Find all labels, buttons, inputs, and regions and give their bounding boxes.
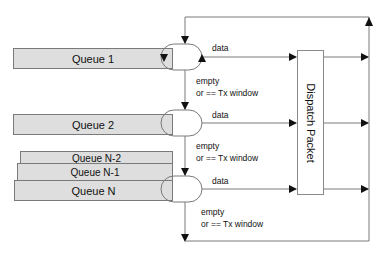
connector-graphics xyxy=(0,0,383,255)
selector-n xyxy=(161,176,202,202)
empty-label-2: empty xyxy=(196,141,219,152)
dispatch-packet-box: Dispatch Packet xyxy=(297,50,324,195)
selector-1 xyxy=(161,44,202,70)
condition-label-2: or == Tx window xyxy=(196,153,258,164)
data-label-3: data xyxy=(212,176,229,187)
selector-2 xyxy=(161,110,202,136)
condition-label-1: or == Tx window xyxy=(196,88,258,99)
dispatch-packet-label: Dispatch Packet xyxy=(305,83,317,162)
data-label-1: data xyxy=(212,43,229,54)
condition-label-3: or == Tx window xyxy=(201,219,263,230)
empty-label-3: empty xyxy=(201,207,224,218)
empty-label-1: empty xyxy=(196,76,219,87)
data-label-2: data xyxy=(212,110,229,121)
